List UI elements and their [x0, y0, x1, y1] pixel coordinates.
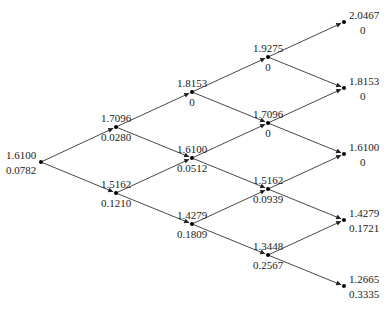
node-price-label: 1.5162: [101, 178, 131, 190]
node-price-label: 2.0467: [349, 9, 380, 21]
node-price-label: 1.7096: [101, 112, 132, 124]
node-price-label: 1.3448: [253, 240, 284, 252]
tree-node: 1.51620.0939: [253, 174, 284, 205]
node-dot: [114, 125, 118, 129]
tree-node: 1.81530: [177, 77, 208, 108]
node-option-value-label: 0: [265, 61, 271, 73]
node-option-value-label: 0: [360, 90, 366, 102]
node-dot: [190, 90, 194, 94]
node-price-label: 1.4279: [177, 209, 208, 221]
node-price-label: 1.2665: [349, 273, 380, 285]
node-price-label: 1.4279: [349, 207, 380, 219]
node-price-label: 1.9275: [253, 42, 284, 54]
binomial-tree-diagram: 1.61000.07821.70960.02801.51620.12101.81…: [0, 0, 388, 320]
node-dot: [342, 284, 346, 288]
node-dot: [114, 191, 118, 195]
tree-node: 1.26650.3335: [342, 273, 380, 300]
tree-node: 1.61000.0512: [177, 143, 208, 174]
node-price-label: 1.5162: [253, 174, 283, 186]
node-price-label: 1.8153: [177, 77, 208, 89]
tree-edge: [268, 57, 341, 87]
node-option-value-label: 0.2567: [253, 259, 284, 271]
tree-node: 2.04670: [342, 9, 380, 36]
node-option-value-label: 0.3335: [349, 288, 380, 300]
tree-nodes: 1.61000.07821.70960.02801.51620.12101.81…: [6, 9, 380, 300]
node-option-value-label: 0: [189, 96, 195, 108]
tree-edge: [268, 123, 341, 153]
tree-node: 1.61000: [342, 141, 380, 168]
node-option-value-label: 0.0939: [253, 193, 284, 205]
node-dot: [342, 218, 346, 222]
node-dot: [266, 55, 270, 59]
node-option-value-label: 0: [360, 156, 366, 168]
node-option-value-label: 0.1809: [177, 228, 208, 240]
node-dot: [266, 121, 270, 125]
tree-node: 1.92750: [253, 42, 284, 73]
node-dot: [342, 152, 346, 156]
node-dot: [266, 187, 270, 191]
node-price-label: 1.6100: [177, 143, 208, 155]
tree-node: 1.70960.0280: [101, 112, 132, 143]
node-dot: [342, 20, 346, 24]
tree-node: 1.61000.0782: [6, 149, 43, 176]
tree-node: 1.81530: [342, 75, 380, 102]
node-option-value-label: 0.0280: [101, 131, 132, 143]
node-price-label: 1.6100: [349, 141, 380, 153]
node-dot: [266, 253, 270, 257]
node-dot: [342, 86, 346, 90]
tree-node: 1.34480.2567: [253, 240, 284, 271]
node-option-value-label: 0.0512: [177, 162, 207, 174]
node-option-value-label: 0: [360, 24, 366, 36]
node-price-label: 1.6100: [6, 149, 37, 161]
tree-node: 1.51620.1210: [101, 178, 132, 209]
node-dot: [39, 160, 43, 164]
node-option-value-label: 0.1210: [101, 197, 132, 209]
node-option-value-label: 0: [265, 127, 271, 139]
node-price-label: 1.7096: [253, 108, 284, 120]
tree-node: 1.70960: [253, 108, 284, 139]
tree-node: 1.42790.1721: [342, 207, 380, 234]
tree-node: 1.42790.1809: [177, 209, 208, 240]
node-dot: [190, 156, 194, 160]
node-option-value-label: 0.1721: [349, 222, 379, 234]
node-price-label: 1.8153: [349, 75, 380, 87]
node-option-value-label: 0.0782: [6, 164, 36, 176]
node-dot: [190, 222, 194, 226]
